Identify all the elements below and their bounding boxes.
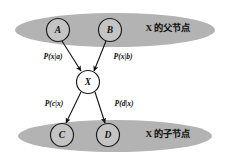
edge-label-p-d-given-x: P(d|x) [115,99,134,108]
children-group-label: X 的子节点 [146,128,191,139]
node-x-label: X [84,77,92,87]
edge-label-p-c-given-x: P(c|x) [45,99,64,108]
edge-label-p-x-given-a: P(x|a) [44,52,63,61]
node-b[interactable]: B [99,19,122,42]
bayesian-network-diagram: X 的父节点 X 的子节点 P(x|a) P(x|b) P(c|x) P(d|x… [0,0,226,156]
node-d-label: D [104,130,112,140]
edge-x-to-c [66,92,81,123]
node-a-label: A [54,25,61,35]
node-x[interactable]: X [77,71,100,94]
edge-x-to-d [95,92,105,123]
node-c-label: C [59,130,66,140]
diagram-canvas: X 的父节点 X 的子节点 P(x|a) P(x|b) P(c|x) P(d|x… [0,0,226,156]
edge-label-p-x-given-b: P(x|b) [114,52,133,61]
node-c[interactable]: C [51,124,74,147]
node-a[interactable]: A [47,19,70,42]
node-d[interactable]: D [97,124,120,147]
parents-group-label: X 的父节点 [146,22,191,33]
node-b-label: B [106,25,113,35]
